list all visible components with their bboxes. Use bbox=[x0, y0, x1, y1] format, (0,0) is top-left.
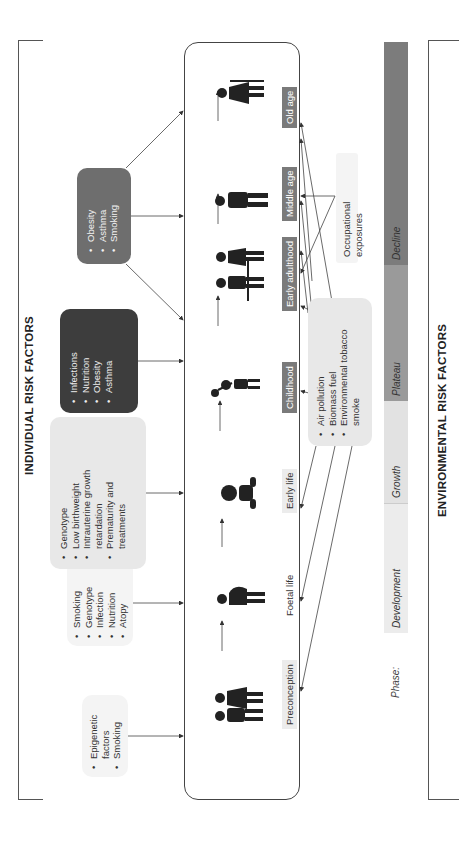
phase-plateau: Plateau bbox=[384, 265, 408, 401]
stage-label-middle-age: Middle age bbox=[282, 167, 297, 221]
stage-label-preconception: Preconception bbox=[282, 660, 297, 729]
elderly-woman-icon bbox=[217, 80, 264, 104]
adult-couple-icon bbox=[216, 248, 264, 301]
phase-development: Development bbox=[384, 504, 408, 633]
pregnant-woman-icon bbox=[217, 587, 265, 605]
stage-label-childhood: Childhood bbox=[282, 362, 297, 413]
env-box-air: Air pollution Biomass fuel Environmental… bbox=[308, 298, 372, 446]
stage-label-early-life: Early life bbox=[282, 469, 297, 513]
stage-label-old-age: Old age bbox=[282, 87, 297, 128]
phase-name: Plateau bbox=[391, 362, 402, 396]
couple-icon bbox=[215, 687, 263, 722]
env-item: Air pollution bbox=[315, 308, 327, 426]
phase-name: Decline bbox=[391, 227, 402, 260]
baby-icon bbox=[221, 477, 256, 509]
middle-aged-man-icon bbox=[215, 192, 268, 208]
stage-label-early-adulthood: Early adulthood bbox=[282, 237, 297, 311]
phase-name: Development bbox=[391, 569, 402, 628]
environmental-risk-title: ENVIRONMENTAL RISK FACTORS bbox=[436, 318, 448, 523]
phase-decline: Decline bbox=[384, 42, 408, 265]
child-icon bbox=[211, 379, 260, 397]
env-box-occupational: Occupational exposures bbox=[336, 153, 358, 263]
stage-label-foetal-life: Foetal life bbox=[282, 571, 297, 620]
phase-name: Growth bbox=[391, 466, 402, 498]
phase-growth: Growth bbox=[384, 401, 408, 504]
env-item: Environmental tobacco smoke bbox=[338, 311, 361, 426]
phase-label: Phase: bbox=[390, 667, 401, 698]
env-item: Biomass fuel bbox=[327, 308, 339, 426]
